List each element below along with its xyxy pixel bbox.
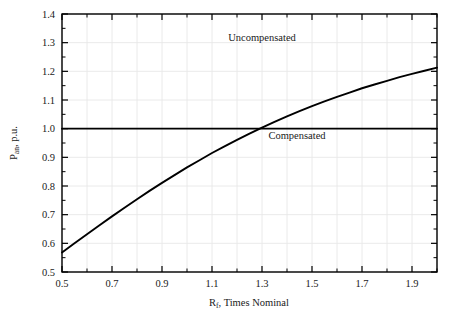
series-label-uncompensated: Uncompensated [228,32,296,43]
series-label-compensated: Compensated [268,130,326,141]
y-tick-label: 1.4 [42,9,56,20]
plot-area-background [62,14,437,272]
y-tick-label: 0.5 [42,267,55,278]
y-tick-label: 1.0 [42,123,55,134]
y-tick-label: 1.2 [42,66,55,77]
x-tick-label: 1.7 [355,278,368,289]
y-tick-label: 1.3 [42,37,55,48]
x-tick-label: 0.9 [155,278,168,289]
x-tick-label: 1.9 [405,278,418,289]
x-tick-label: 0.5 [55,278,68,289]
x-tick-label: 1.3 [255,278,268,289]
y-tick-label: 1.1 [42,95,55,106]
y-tick-label: 0.8 [42,181,55,192]
x-tick-label: 0.7 [105,278,118,289]
x-tick-label: 1.5 [305,278,318,289]
y-tick-label: 0.9 [42,152,55,163]
chart-figure: 0.50.70.91.11.31.51.71.9 0.50.60.70.80.9… [0,0,457,317]
y-tick-label: 0.7 [42,209,55,220]
x-tick-label: 1.1 [205,278,218,289]
chart-canvas: 0.50.70.91.11.31.51.71.9 0.50.60.70.80.9… [0,0,457,317]
y-tick-label: 0.6 [42,238,55,249]
